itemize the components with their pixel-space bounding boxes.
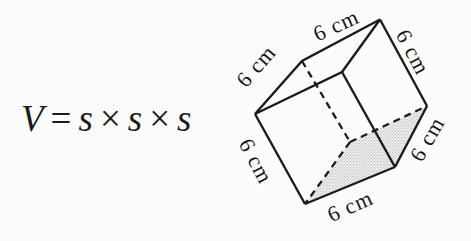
worksheet-figure: V=s×s×s 6 cm bbox=[0, 0, 471, 241]
cube-diagram: 6 cm 6 cm 6 cm 6 cm 6 cm 6 cm bbox=[0, 0, 471, 241]
edge-label-top: 6 cm bbox=[309, 4, 362, 46]
edge-label-upper-left: 6 cm bbox=[231, 40, 281, 92]
